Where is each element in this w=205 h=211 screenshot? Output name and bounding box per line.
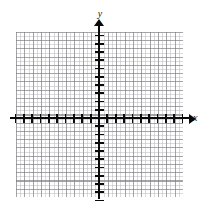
x-axis-tick [48,114,50,123]
y-axis-tick [95,92,104,94]
x-axis-tick [81,114,83,123]
y-axis-tick [95,51,104,53]
y-axis-label: y [93,8,107,19]
y-axis-tick [95,84,104,86]
x-axis-tick [182,114,184,123]
y-axis-tick [95,158,104,160]
x-axis-label: x [193,112,205,123]
x-axis-tick [140,114,142,123]
y-axis-tick [95,134,104,136]
y-axis-tick [95,150,104,152]
y-axis-tick [95,125,104,127]
coordinate-plane-figure: y x [0,0,205,211]
x-axis-tick [132,114,134,123]
x-axis-tick [73,114,75,123]
y-axis-tick [95,76,104,78]
x-axis-tick [23,114,25,123]
y-axis-tick [95,191,104,193]
y-axis-tick [95,109,104,111]
x-axis-tick [173,114,175,123]
y-axis-tick [95,59,104,61]
y-axis-tick [95,175,104,177]
x-axis-tick [106,114,108,123]
y-axis-arrow-icon [94,19,104,26]
x-axis-tick [40,114,42,123]
x-axis-tick [148,114,150,123]
x-axis-tick [165,114,167,123]
x-axis-tick [56,114,58,123]
y-axis-tick [95,142,104,144]
y-axis-tick [95,183,104,185]
x-axis-tick [31,114,33,123]
y-axis-tick [95,101,104,103]
x-axis-tick [65,114,67,123]
y-axis-tick [95,68,104,70]
x-axis-tick [90,114,92,123]
y-axis-tick [95,167,104,169]
x-axis-tick [157,114,159,123]
x-axis-tick [115,114,117,123]
y-axis-tick [95,35,104,37]
y-axis-tick [95,200,104,202]
y-axis-tick [95,43,104,45]
x-axis-tick [15,114,17,123]
x-axis-tick [123,114,125,123]
